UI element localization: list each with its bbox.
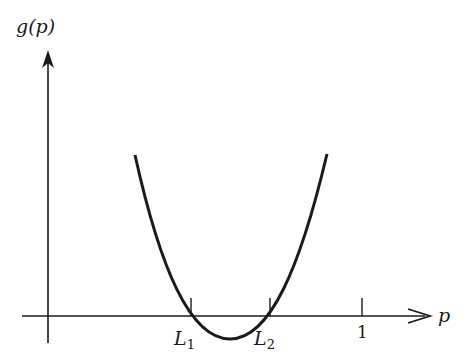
tick-label-l2: L2 <box>253 327 275 352</box>
y-axis-label: g(p) <box>16 15 55 37</box>
tick-label-one: 1 <box>357 322 368 342</box>
diagram-canvas: g(p) p L1 L2 1 <box>0 0 471 361</box>
x-axis-label: p <box>438 304 450 326</box>
g-curve <box>135 154 327 339</box>
tick-label-l1: L1 <box>173 327 195 352</box>
